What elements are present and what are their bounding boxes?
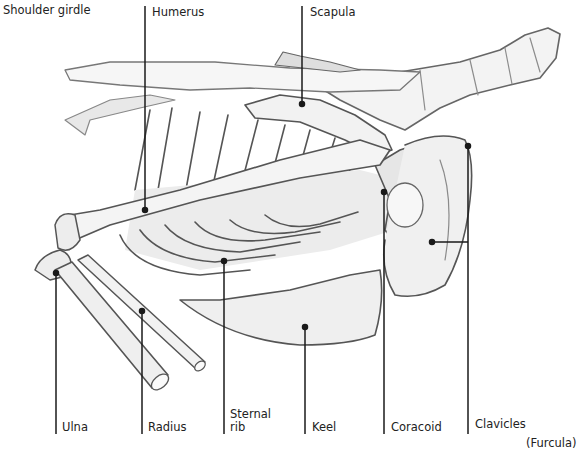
- keel-bone: [180, 270, 382, 345]
- backbone: [65, 62, 420, 92]
- label-sternal-rib-line2: rib: [230, 421, 245, 434]
- bone-sketch: [35, 28, 560, 393]
- label-clavicles: Clavicles: [475, 418, 526, 431]
- label-radius: Radius: [148, 421, 187, 434]
- label-ulna: Ulna: [62, 421, 88, 434]
- label-furcula: (Furcula): [526, 437, 577, 450]
- label-scapula: Scapula: [310, 6, 356, 19]
- label-keel: Keel: [312, 421, 336, 434]
- label-shoulder-girdle: Shoulder girdle: [3, 4, 90, 17]
- label-humerus: Humerus: [152, 6, 204, 19]
- label-coracoid: Coracoid: [391, 421, 442, 434]
